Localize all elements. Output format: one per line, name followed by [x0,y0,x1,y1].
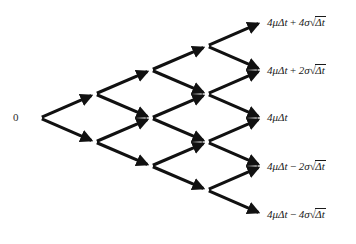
binomial-lattice-diagram: 0 4μΔt+4σ√Δt4μΔt+2σ√Δt4μΔt4μΔt−2σ√Δt4μΔt… [0,0,356,244]
square-root-icon: √Δt [310,64,326,76]
lattice-edge-up [209,168,258,190]
terminal-radicand: Δt [315,64,326,76]
terminal-diffusion-coefficient: 2σ [299,160,310,172]
root-node-label: 0 [13,112,19,123]
terminal-diffusion-coefficient: 2σ [299,64,310,76]
terminal-node-label: 4μΔt−2σ√Δt [267,160,326,172]
terminal-operator: + [288,64,299,76]
terminal-radicand: Δt [315,160,326,172]
terminal-drift-term: 4μΔt [267,160,288,172]
square-root-icon: √Δt [310,16,326,28]
terminal-operator: − [288,160,299,172]
lattice-edge-down [209,143,258,165]
square-root-icon: √Δt [310,160,326,172]
lattice-edge-up [153,144,203,166]
lattice-edge-down [209,191,258,213]
terminal-radicand: Δt [315,208,326,220]
terminal-diffusion-coefficient: 4σ [299,16,310,28]
terminal-radicand: Δt [315,16,326,28]
terminal-drift-term: 4μΔt [267,64,288,76]
lattice-edge-down [209,47,258,69]
lattice-edge-down [153,167,203,189]
lattice-edge-up [153,96,203,118]
lattice-edge-up [97,120,147,142]
lattice-edge-down [153,71,203,93]
terminal-operator: + [288,16,299,28]
terminal-node-label: 4μΔt+2σ√Δt [267,64,326,76]
lattice-edge-up [42,96,92,118]
square-root-icon: √Δt [310,208,326,220]
lattice-edge-down [97,143,147,165]
lattice-edge-down [42,119,92,141]
terminal-diffusion-coefficient: 4σ [299,208,310,220]
lattice-edge-down [97,95,147,117]
terminal-drift-term: 4μΔt [267,111,288,123]
lattice-edge-down [209,95,258,117]
lattice-edge-up [209,120,258,142]
lattice-edge-up [209,24,258,46]
lattice-edge-up [209,72,258,94]
terminal-operator: − [288,208,299,220]
terminal-drift-term: 4μΔt [267,208,288,220]
terminal-node-label: 4μΔt+4σ√Δt [267,16,326,28]
lattice-edge-up [97,72,147,94]
lattice-edge-up [153,48,203,70]
terminal-node-label: 4μΔt−4σ√Δt [267,208,326,220]
terminal-drift-term: 4μΔt [267,16,288,28]
lattice-edge-down [153,119,203,141]
lattice-edge-layer [42,24,258,213]
terminal-node-label: 4μΔt [267,112,288,123]
